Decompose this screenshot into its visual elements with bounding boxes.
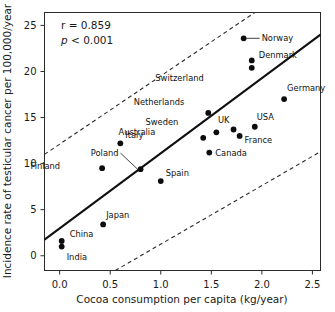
scatter-chart-figure: 0.00.51.01.52.02.5 0510152025 ChinaIndia… — [0, 0, 335, 312]
data-point-label: China — [70, 229, 94, 239]
data-point — [117, 140, 123, 146]
y-tick-label: 15 — [24, 112, 37, 123]
data-point — [213, 129, 219, 135]
y-tick-label: 0 — [30, 250, 36, 261]
y-tick-label: 20 — [24, 66, 37, 77]
data-point-label: USA — [257, 112, 274, 122]
data-point — [281, 96, 287, 102]
y-tick-label: 5 — [30, 204, 36, 215]
x-tick-label: 1.0 — [153, 279, 169, 290]
correlation-annotation: r = 0.859 — [61, 19, 111, 31]
y-axis-ticks — [41, 25, 45, 255]
data-point-label: Finland — [30, 161, 60, 171]
data-point-label: India — [67, 252, 87, 262]
p-value-annotation: p < 0.001 — [60, 34, 113, 46]
data-point — [231, 127, 237, 133]
data-point-label: Poland — [91, 148, 119, 158]
data-point — [237, 133, 243, 139]
plot-canvas: 0.00.51.01.52.02.5 0510152025 ChinaIndia… — [0, 0, 335, 312]
data-point — [200, 135, 206, 141]
p-value-rest: < 0.001 — [68, 34, 114, 46]
data-point — [205, 110, 211, 116]
x-tick-label: 1.5 — [203, 279, 219, 290]
data-point — [59, 244, 65, 250]
x-axis-ticks — [60, 271, 313, 275]
data-point-label: Norway — [262, 33, 294, 43]
data-point-label: Japan — [105, 210, 129, 220]
x-axis-title: Cocoa consumption per capita (kg/year) — [76, 293, 287, 305]
data-point — [158, 178, 164, 184]
data-point — [59, 238, 65, 244]
data-point-label: UK — [218, 115, 230, 125]
x-tick-label: 0.5 — [102, 279, 118, 290]
data-point — [249, 58, 255, 64]
data-point-label: Canada — [215, 148, 247, 158]
data-point — [206, 150, 212, 156]
y-axis-title: Incidence rate of testicular cancer per … — [1, 3, 13, 278]
y-tick-label: 25 — [24, 20, 37, 31]
data-point — [249, 65, 255, 71]
data-point-label: Denmark — [259, 50, 297, 60]
data-point — [100, 222, 106, 228]
data-point-label: France — [245, 135, 273, 145]
x-tick-label: 0.0 — [52, 279, 68, 290]
data-point — [252, 124, 258, 130]
data-point-label: Sweden — [146, 117, 179, 127]
data-point-label: Germany — [287, 83, 325, 93]
x-axis-tick-labels: 0.00.51.01.52.02.5 — [52, 279, 321, 290]
data-point-label: Australia — [119, 127, 156, 137]
data-point-label: Switzerland — [155, 73, 203, 83]
data-point-label: Spain — [166, 168, 189, 178]
data-point-label: Netherlands — [134, 97, 185, 107]
data-point — [138, 166, 144, 172]
data-point — [241, 35, 247, 41]
y-axis-tick-labels: 0510152025 — [24, 20, 37, 261]
x-tick-label: 2.5 — [304, 279, 320, 290]
data-point — [99, 165, 105, 171]
x-tick-label: 2.0 — [254, 279, 270, 290]
